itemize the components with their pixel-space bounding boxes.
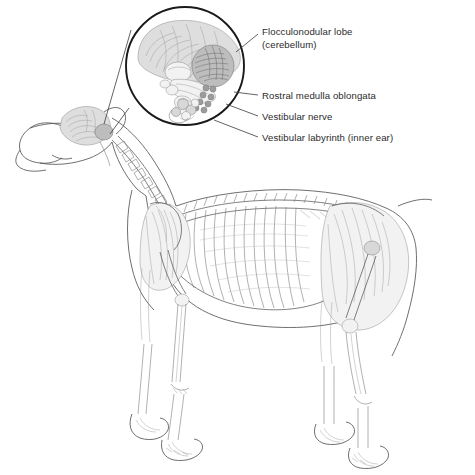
label-vestibular-labyrinth: Vestibular labyrinth (inner ear) — [262, 132, 393, 143]
brain-magnification-inset — [125, 6, 245, 126]
label-rostral-medulla-oblongata: Rostral medulla oblongata — [262, 90, 377, 101]
label-flocculonodular-lobe-line2: (cerebellum) — [262, 39, 317, 50]
hip-joint — [364, 241, 380, 255]
dog-head-cerebellum — [95, 124, 113, 140]
midbrain — [165, 62, 191, 82]
illustration-canvas: Flocculonodular lobe (cerebellum) Rostra… — [0, 0, 475, 475]
anatomy-figure: Flocculonodular lobe (cerebellum) Rostra… — [0, 0, 475, 475]
optic-chiasm — [160, 80, 170, 88]
elbow-joint — [175, 294, 189, 306]
cerebellum — [192, 45, 234, 87]
label-vestibular-nerve: Vestibular nerve — [262, 111, 332, 122]
stifle-joint — [342, 319, 358, 333]
label-flocculonodular-lobe-line1: Flocculonodular lobe — [262, 26, 353, 37]
